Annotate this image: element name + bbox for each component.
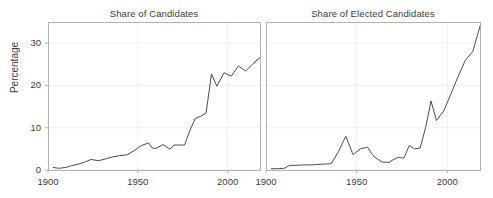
x-tick-label: 1900 [28,176,68,187]
y-tick-label: 20 [15,79,41,90]
x-tick-label: 1950 [337,176,377,187]
x-tick-label: 1950 [118,176,158,187]
y-tick-label: 0 [15,164,41,175]
plot-svg [0,0,493,198]
figure-container: Share of Candidates Share of Elected Can… [0,0,493,198]
y-tick-label: 10 [15,122,41,133]
y-tick-label: 30 [15,37,41,48]
x-tick-label: 1900 [246,176,286,187]
x-tick-label: 2000 [208,176,248,187]
data-line [271,26,480,169]
data-line [53,58,260,169]
x-tick-label: 2000 [427,176,467,187]
